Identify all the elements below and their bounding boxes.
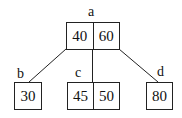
node-a: 40 60 [66, 22, 120, 50]
node-c: 45 50 [67, 82, 120, 110]
node-label-a: a [88, 5, 94, 19]
edge-a-d [119, 49, 158, 82]
edge-a-b [29, 49, 66, 82]
b-tree-diagram: a 40 60 b 30 c 45 50 d 80 [0, 0, 182, 118]
node-c-key-1: 45 [68, 83, 93, 109]
node-a-key-1: 40 [67, 23, 93, 49]
node-d-key-1: 80 [147, 83, 172, 109]
node-b-key-1: 30 [15, 83, 41, 109]
node-b: 30 [14, 82, 42, 110]
node-d: 80 [146, 82, 173, 110]
node-label-c: c [75, 66, 81, 80]
node-a-key-2: 60 [93, 23, 120, 49]
node-c-key-2: 50 [93, 83, 119, 109]
node-label-b: b [17, 67, 24, 81]
node-label-d: d [157, 65, 164, 79]
